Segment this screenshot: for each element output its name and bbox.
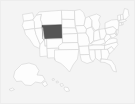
state-kansas[interactable]: [62, 34, 78, 43]
state-nebraska[interactable]: [62, 28, 77, 34]
state-hawaii-inset-island-1[interactable]: [52, 79, 55, 81]
state-hawaii-inset-island-4[interactable]: [64, 87, 70, 92]
state-florida[interactable]: [100, 59, 117, 72]
state-alaska-inset[interactable]: [14, 63, 46, 86]
state-hawaii-inset-island-2[interactable]: [56, 81, 59, 83]
alaska-panhandle[interactable]: [42, 81, 48, 87]
state-alabama[interactable]: [95, 50, 102, 61]
state-maine[interactable]: [123, 9, 129, 20]
state-wyoming-highlighted[interactable]: [42, 25, 62, 39]
state-arkansas[interactable]: [79, 46, 90, 55]
state-oklahoma[interactable]: [59, 43, 79, 50]
alaska-aleutian-islands[interactable]: [9, 88, 15, 91]
state-hawaii-inset-island-3[interactable]: [60, 84, 64, 87]
state-south-dakota[interactable]: [62, 19, 76, 28]
state-new-jersey[interactable]: [116, 30, 118, 36]
state-texas[interactable]: [55, 50, 79, 73]
us-locator-map: Map of the United States with Wyoming hi…: [0, 0, 135, 104]
state-north-dakota[interactable]: [61, 10, 74, 19]
state-minnesota[interactable]: [75, 10, 86, 26]
state-oregon[interactable]: [22, 20, 34, 30]
us-map-svg: [1, 1, 135, 104]
state-rhode-island[interactable]: [122, 22, 124, 25]
